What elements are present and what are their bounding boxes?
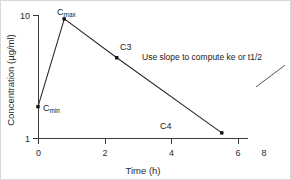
marker-c4 bbox=[220, 131, 223, 134]
point-label-cmin-sub: min bbox=[50, 107, 61, 114]
chart-canvas: 10 1 0 2 4 6 8 C min C max C3 C4 Use slo… bbox=[0, 0, 291, 180]
y-axis-title: Concentration (µg/ml) bbox=[5, 34, 16, 126]
point-label-cmin: C min bbox=[43, 103, 60, 114]
marker-cmin bbox=[36, 105, 39, 108]
point-label-cmax: C max bbox=[57, 7, 77, 18]
marker-c3 bbox=[115, 56, 118, 59]
pharmacokinetics-chart: 10 1 0 2 4 6 8 C min C max C3 C4 Use slo… bbox=[0, 0, 291, 180]
x-axis-title: Time (h) bbox=[125, 165, 160, 176]
image-frame bbox=[1, 1, 291, 180]
concentration-curve bbox=[38, 19, 222, 133]
point-label-cmax-sub: max bbox=[64, 11, 77, 18]
point-label-c3: C3 bbox=[120, 42, 132, 52]
point-label-c4: C4 bbox=[160, 121, 172, 131]
y-tick-label-10: 10 bbox=[20, 11, 30, 21]
x-tick-label-4: 4 bbox=[169, 148, 174, 158]
slope-annotation-text: Use slope to compute ke or t1/2 bbox=[142, 52, 262, 62]
x-tick-label-2: 2 bbox=[102, 148, 107, 158]
x-tick-label-8: 8 bbox=[261, 148, 266, 158]
x-tick-label-0: 0 bbox=[36, 148, 41, 158]
x-tick-label-6: 6 bbox=[235, 148, 240, 158]
slope-annotation-leader bbox=[256, 65, 285, 87]
y-tick-label-1: 1 bbox=[25, 134, 30, 144]
